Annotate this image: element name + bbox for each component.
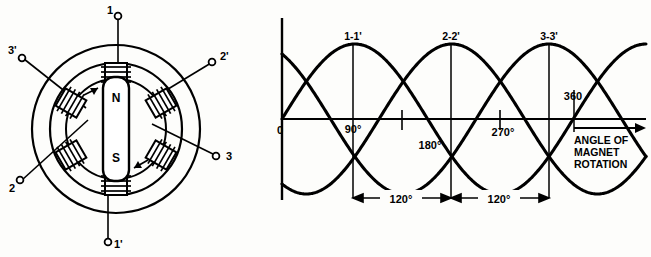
x-axis-caption-line2: MAGNET: [574, 146, 620, 158]
figure-root: N S 1 2' 3 1' 2 3': [0, 0, 651, 257]
dimension-label-2: 120°: [488, 193, 511, 205]
waveform-chart-panel: 1-1' 2-2' 3-3' 0 90° 180° 270° 360 ANGLE…: [260, 0, 651, 257]
x-axis-caption-line1: ANGLE OF: [574, 134, 629, 146]
x-tick-label-90: 90°: [345, 123, 362, 135]
peak-label-1: 1-1': [344, 30, 362, 42]
terminal-label-2p: 2': [220, 50, 229, 62]
motor-svg: N S 1 2' 3 1' 2 3': [0, 0, 260, 257]
terminal-dot-2[interactable]: [17, 177, 24, 184]
peak-label-2: 2-2': [442, 30, 460, 42]
terminal-dot-3p[interactable]: [19, 55, 26, 62]
x-tick-label-0: 0: [277, 124, 283, 136]
terminal-label-3p: 3': [8, 44, 17, 56]
x-tick-label-180: 180°: [419, 139, 442, 151]
x-tick-label-360: 360: [564, 90, 582, 102]
x-axis-direction-arrow: [574, 123, 646, 133]
rotor-south-label: S: [112, 151, 120, 165]
peak-droplines: [353, 44, 574, 198]
waveform-svg: 1-1' 2-2' 3-3' 0 90° 180° 270° 360 ANGLE…: [260, 0, 651, 257]
terminal-dot-1[interactable]: [115, 13, 122, 20]
terminal-dot-2p[interactable]: [209, 59, 216, 66]
peak-label-3: 3-3': [540, 30, 558, 42]
dimension-label-1: 120°: [390, 193, 413, 205]
terminal-label-3: 3: [226, 150, 232, 162]
terminal-dot-3[interactable]: [213, 153, 220, 160]
rotor-north-label: N: [112, 91, 121, 105]
terminal-label-2: 2: [9, 182, 15, 194]
terminal-label-1p: 1': [114, 238, 123, 250]
x-tick-label-270: 270°: [492, 126, 515, 138]
terminal-dot-1p[interactable]: [105, 239, 112, 246]
motor-diagram-panel: N S 1 2' 3 1' 2 3': [0, 0, 260, 257]
rotation-arrow-lower: [134, 160, 148, 168]
terminal-label-1: 1: [107, 4, 113, 16]
x-axis-caption-line3: ROTATION: [574, 158, 627, 170]
